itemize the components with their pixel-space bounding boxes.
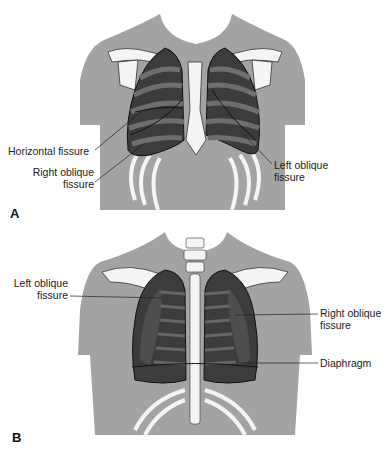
label-line: Left oblique xyxy=(8,277,68,289)
panel-letter-a: A xyxy=(10,206,19,221)
panel-b-posterior-view: Left oblique fissure Right oblique fissu… xyxy=(0,230,391,457)
posterior-chest-illustration xyxy=(0,230,391,457)
label-line: Left oblique xyxy=(274,159,328,171)
label-left-oblique-fissure: Left oblique fissure xyxy=(274,159,328,183)
panel-a-anterior-view: Horizontal fissure Right oblique fissure… xyxy=(0,0,391,230)
left-scapula xyxy=(252,60,272,90)
label-left-oblique-fissure: Left oblique fissure xyxy=(8,277,68,301)
label-right-oblique-fissure: Right oblique fissure xyxy=(320,307,381,331)
label-horizontal-fissure: Horizontal fissure xyxy=(8,145,89,157)
label-line: fissure xyxy=(320,319,381,331)
right-scapula xyxy=(118,60,138,90)
label-diaphragm: Diaphragm xyxy=(320,357,371,369)
label-line: fissure xyxy=(32,178,94,190)
anterior-chest-illustration xyxy=(0,0,391,230)
label-line: Right oblique xyxy=(32,166,94,178)
label-line: fissure xyxy=(274,171,328,183)
panel-letter-b: B xyxy=(12,430,21,445)
label-right-oblique-fissure: Right oblique fissure xyxy=(32,166,94,190)
label-line: Right oblique xyxy=(320,307,381,319)
label-line: fissure xyxy=(8,289,68,301)
